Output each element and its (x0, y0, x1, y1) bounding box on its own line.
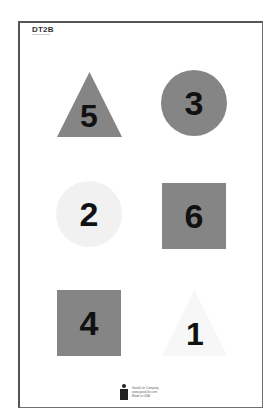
shape-number-2: 2 (80, 197, 99, 231)
chart-code-label: DT2B (32, 25, 54, 34)
shape-number-6: 6 (185, 199, 204, 233)
chart-code-underline (32, 34, 50, 35)
circle-shape-2: 2 (56, 181, 122, 247)
shape-number-4: 4 (80, 306, 99, 340)
publisher-footer: Good-Lite Company www.good-lite.com Made… (120, 384, 159, 400)
shape-number-5: 5 (80, 100, 98, 132)
circle-shape-3: 3 (161, 70, 227, 136)
footer-text: Good-Lite Company www.good-lite.com Made… (132, 387, 159, 398)
shape-number-3: 3 (185, 86, 204, 120)
shape-number-1: 1 (186, 318, 204, 350)
footer-line-3: Made in USA (132, 395, 159, 398)
square-shape-4: 4 (57, 290, 121, 356)
person-logo-icon (120, 384, 128, 400)
square-shape-6: 6 (162, 183, 226, 249)
